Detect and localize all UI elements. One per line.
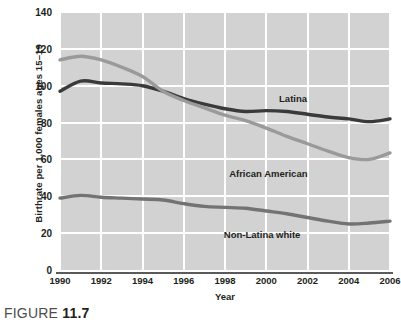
figure-caption: FIGURE 11.7 — [4, 305, 89, 321]
y-axis-tick-0: 0 — [46, 265, 52, 276]
x-axis-tick-1992: 1992 — [91, 275, 112, 286]
x-axis-tick-2004: 2004 — [338, 275, 359, 286]
x-axis-tick-1994: 1994 — [132, 275, 153, 286]
y-axis-tick-20: 20 — [41, 228, 52, 239]
y-axis-tick-100: 100 — [35, 80, 52, 91]
series-label-african-american: African American — [229, 168, 307, 179]
figure-caption-prefix: FIGURE — [4, 305, 58, 321]
y-axis-tick-labels: 020406080100120140 — [0, 12, 56, 270]
x-axis-tick-1990: 1990 — [49, 275, 70, 286]
y-axis-tick-120: 120 — [35, 43, 52, 54]
x-axis-tick-1996: 1996 — [173, 275, 194, 286]
x-axis-tick-2002: 2002 — [297, 275, 318, 286]
y-axis-tick-80: 80 — [41, 117, 52, 128]
series-line-non-latina-white — [60, 195, 390, 224]
x-axis-title: Year — [60, 291, 390, 302]
x-axis-tick-2000: 2000 — [256, 275, 277, 286]
x-axis-tick-labels: 199019921994199619982000200220042006 — [60, 275, 390, 291]
x-axis-tick-1998: 1998 — [214, 275, 235, 286]
y-axis-tick-140: 140 — [35, 7, 52, 18]
x-axis-line — [56, 272, 393, 274]
y-axis-tick-60: 60 — [41, 154, 52, 165]
y-axis-tick-40: 40 — [41, 191, 52, 202]
series-label-latina: Latina — [279, 93, 307, 104]
x-axis-tick-2006: 2006 — [379, 275, 400, 286]
series-label-non-latina-white: Non-Latina white — [224, 229, 301, 240]
figure-caption-number: 11.7 — [62, 305, 89, 321]
